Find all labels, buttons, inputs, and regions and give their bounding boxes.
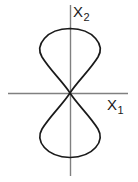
x-axis-label-variable: X [107,96,117,113]
x-axis-label: X1 [107,97,124,116]
y-axis-label: X2 [73,4,90,23]
figure-container: X2 X1 [0,0,138,182]
x-axis-label-subscript: 1 [117,104,124,116]
y-axis-label-subscript: 2 [83,11,90,23]
y-axis-label-variable: X [73,3,83,20]
plot-canvas [0,0,138,182]
